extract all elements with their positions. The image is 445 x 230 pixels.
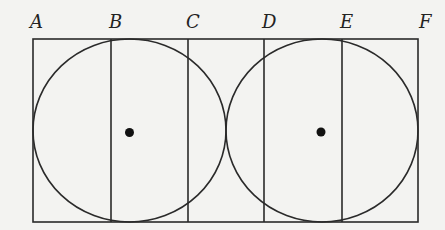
label-e: E <box>340 12 353 32</box>
left-center-dot <box>125 128 134 137</box>
circles <box>33 39 418 222</box>
right-center-dot <box>317 128 326 137</box>
label-b: B <box>109 12 122 32</box>
label-d: D <box>262 12 276 32</box>
label-f: F <box>419 12 432 32</box>
label-a: A <box>30 12 43 32</box>
label-c: C <box>186 12 200 32</box>
diagram-canvas <box>0 0 445 230</box>
